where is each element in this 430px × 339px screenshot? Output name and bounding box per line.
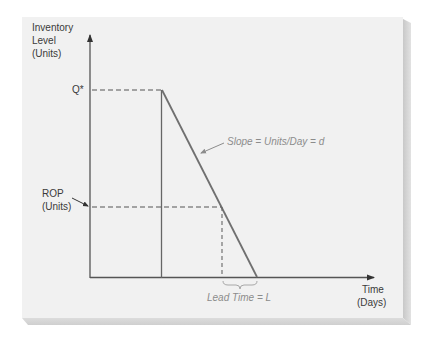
slope-label: Slope = Units/Day = d [227, 136, 324, 148]
y-axis-label-line2: Level [32, 35, 56, 47]
rop-pointer-arrow [72, 198, 88, 206]
x-axis-label-line1: Time [362, 284, 384, 296]
depletion-slope-line [162, 90, 257, 277]
x-axis-label-line2: (Days) [357, 297, 386, 309]
slope-pointer-arrow [201, 143, 224, 153]
y-axis-label-line3: (Units) [32, 48, 61, 60]
lead-time-label: Lead Time = L [207, 292, 271, 304]
rop-label-line1: ROP [42, 188, 64, 200]
lead-time-brace [223, 281, 257, 289]
q-star-label: Q* [72, 84, 84, 96]
rop-label-line2: (Units) [42, 201, 71, 213]
y-axis-label-line1: Inventory [32, 22, 73, 34]
